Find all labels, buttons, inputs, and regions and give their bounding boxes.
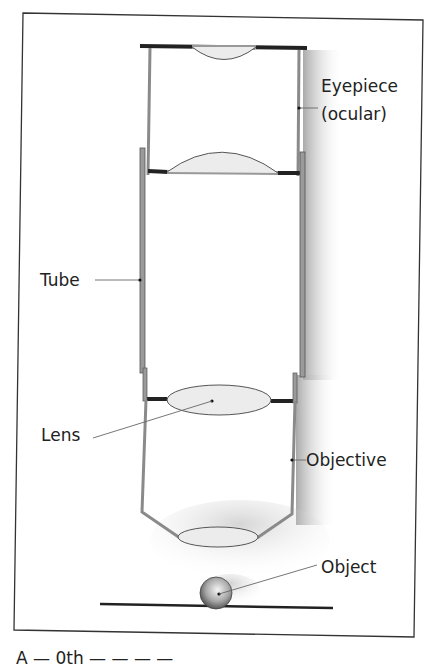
label-ocular: (ocular) bbox=[321, 104, 387, 124]
object-sphere bbox=[200, 577, 232, 609]
eyepiece bbox=[140, 46, 307, 176]
label-objective: Objective bbox=[306, 450, 387, 470]
lens bbox=[145, 385, 293, 415]
figure-caption: A — 0th — — — — bbox=[16, 648, 173, 668]
label-tube: Tube bbox=[39, 270, 80, 290]
eyepiece-shadow bbox=[303, 50, 343, 380]
label-object: Object bbox=[321, 557, 377, 577]
tube bbox=[140, 148, 305, 377]
label-lens: Lens bbox=[41, 425, 80, 445]
label-eyepiece: Eyepiece bbox=[321, 76, 398, 96]
